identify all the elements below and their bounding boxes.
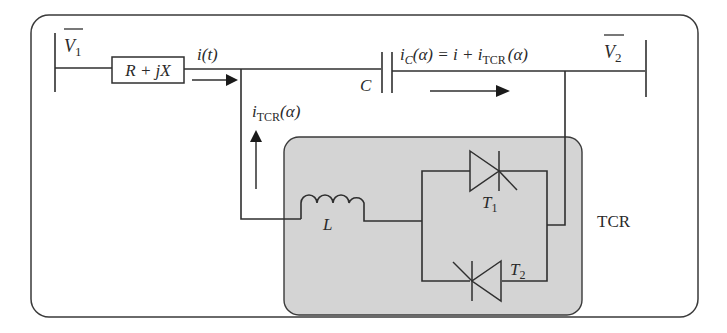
capacitor-label: C [360,76,372,95]
tcr-circuit-diagram: V1 R + jX i(t) C iC(α) = i + iTCR(α) V2 … [0,0,727,333]
bus2-label: V2 [604,42,622,65]
tcr-current-label: iTCR(α) [252,102,301,124]
cap-current-arrow-icon [496,85,510,97]
cap-current-label: iC(α) = i + iTCR(α) [400,45,528,67]
impedance-label: R + jX [124,61,171,80]
tcr-label: TCR [597,212,631,231]
line-current-arrow-icon [226,74,238,86]
bus1-label: V1 [64,36,82,59]
line-current-label: i(t) [197,45,218,64]
inductor-label: L [322,215,332,234]
tcr-current-arrow-icon [250,130,262,142]
